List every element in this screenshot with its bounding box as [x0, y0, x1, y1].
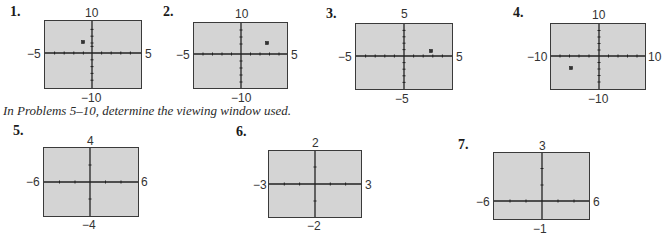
point-marker: [82, 41, 85, 44]
point-marker: [266, 42, 269, 45]
point-marker: [430, 50, 433, 53]
axes-layer: [0, 0, 664, 236]
point-marker: [570, 67, 573, 70]
plotted-points: [82, 41, 573, 70]
